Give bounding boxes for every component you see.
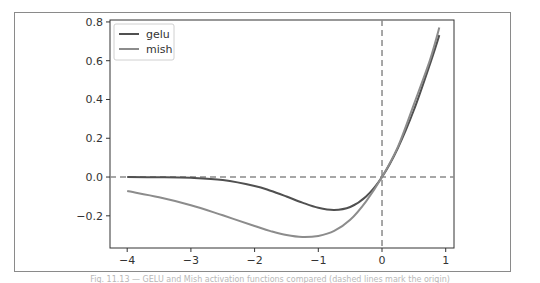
x-axis: −4−3−2−101 <box>119 248 449 267</box>
y-tick-label: 0.4 <box>86 93 104 106</box>
y-axis: 0.80.60.40.20.0−0.2 <box>76 16 110 223</box>
x-tick-label: 0 <box>379 254 386 267</box>
x-tick-label: 1 <box>442 254 449 267</box>
x-tick-label: −2 <box>246 254 262 267</box>
y-tick-label: −0.2 <box>76 210 103 223</box>
x-tick-label: −4 <box>119 254 135 267</box>
y-tick-label: 0.6 <box>86 55 104 68</box>
figure-caption: Fig. 11.13 — GELU and Mish activation fu… <box>0 275 540 283</box>
y-tick-label: 0.0 <box>86 171 104 184</box>
y-tick-label: 0.2 <box>86 132 104 145</box>
line-chart: −4−3−2−101 0.80.60.40.20.0−0.2 gelumish <box>0 0 540 283</box>
legend-label-gelu: gelu <box>146 28 170 41</box>
x-tick-label: −1 <box>310 254 326 267</box>
y-tick-label: 0.8 <box>86 16 104 29</box>
x-tick-label: −3 <box>183 254 199 267</box>
legend: gelumish <box>114 24 174 60</box>
legend-label-mish: mish <box>146 43 173 56</box>
